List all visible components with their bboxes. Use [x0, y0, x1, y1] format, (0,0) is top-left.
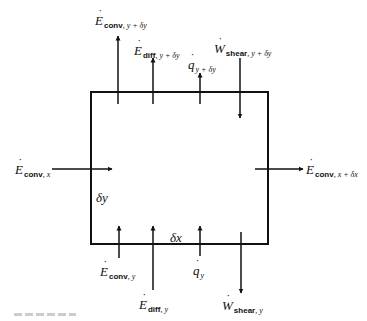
q-dot-symbol: q [193, 264, 200, 277]
subscript-text: conv [109, 272, 128, 281]
subscript-var: y + δy [196, 65, 216, 74]
label-e-diff-y: Ediff, y [139, 298, 168, 314]
subscript-var: , y [255, 306, 263, 315]
figure-caption-fragment [14, 313, 76, 316]
subscript-text: conv [104, 21, 123, 30]
label-e-diff-y-dy: Ediff, y + δy [134, 44, 180, 60]
e-dot-symbol: E [95, 14, 103, 27]
dimension-dx: δx [170, 230, 182, 246]
subscript-text: conv [315, 170, 334, 179]
label-e-conv-x: Econv, x [15, 163, 50, 179]
subscript-var: , x [43, 170, 51, 179]
subscript-var: , y + δy [123, 21, 147, 30]
subscript-text: conv [24, 170, 43, 179]
subscript-text: shear [226, 49, 247, 58]
subscript-var: , y + δy [247, 49, 271, 58]
label-e-conv-y-dy: Econv, y + δy [95, 14, 147, 30]
subscript-text: diff [148, 305, 160, 314]
label-w-shear-y: Wshear, y [222, 299, 263, 315]
e-dot-symbol: E [306, 163, 314, 176]
subscript-var: , y + δy [155, 51, 179, 60]
label-q-y: qy [193, 264, 204, 280]
label-q-y-dy: qy + δy [188, 58, 216, 74]
subscript-var: y [201, 271, 205, 280]
e-dot-symbol: E [100, 265, 108, 278]
subscript-var: , x + δx [334, 170, 358, 179]
label-e-conv-y: Econv, y [100, 265, 135, 281]
dimension-dy: δy [96, 190, 108, 206]
w-dot-symbol: W [214, 42, 225, 55]
control-volume-box [91, 92, 268, 244]
e-dot-symbol: E [15, 163, 23, 176]
label-w-shear-y-dy: Wshear, y + δy [214, 42, 271, 58]
subscript-var: , y [160, 305, 168, 314]
subscript-text: diff [143, 51, 155, 60]
e-dot-symbol: E [139, 298, 147, 311]
q-dot-symbol: q [188, 58, 195, 71]
label-e-conv-x-dx: Econv, x + δx [306, 163, 358, 179]
subscript-text: shear [234, 306, 255, 315]
subscript-var: , y [128, 272, 136, 281]
w-dot-symbol: W [222, 299, 233, 312]
e-dot-symbol: E [134, 44, 142, 57]
